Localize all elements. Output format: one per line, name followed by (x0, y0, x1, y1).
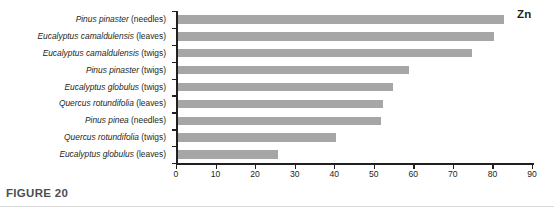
x-axis-tick-label: 60 (401, 169, 425, 179)
y-axis-tick (172, 95, 176, 96)
x-axis-tick-label: 0 (164, 169, 188, 179)
caption-divider (0, 206, 554, 207)
bar (178, 66, 409, 75)
bar-row (178, 146, 534, 163)
x-axis-tick-label: 70 (441, 169, 465, 179)
bar (178, 49, 473, 58)
bar-chart: Pinus pinaster (needles)Eucalyptus camal… (0, 0, 554, 185)
bar (178, 15, 504, 24)
bar (178, 83, 394, 92)
bar (178, 32, 494, 41)
figure-caption-area: FIGURE 20 (0, 185, 554, 215)
y-axis-tick (172, 79, 176, 80)
species-name: Pinus pinaster (76, 14, 129, 24)
bar-row (178, 11, 534, 28)
figure-caption: FIGURE 20 (6, 187, 68, 199)
category-label: Pinus pinaster (twigs) (0, 62, 172, 79)
category-axis-labels: Pinus pinaster (needles)Eucalyptus camal… (0, 11, 172, 163)
x-axis-tick-label: 20 (243, 169, 267, 179)
x-axis-tick-label: 80 (480, 169, 504, 179)
y-axis-tick (172, 129, 176, 130)
species-name: Eucalyptus globulus (59, 149, 134, 159)
y-axis-tick (172, 146, 176, 147)
series-label: Zn (517, 8, 531, 20)
plant-part: (needles) (129, 14, 166, 24)
plant-part: (leaves) (134, 98, 166, 108)
figure-container: Pinus pinaster (needles)Eucalyptus camal… (0, 0, 554, 215)
bar-row (178, 79, 534, 96)
plant-part: (twigs) (139, 48, 166, 58)
bar-row (178, 62, 534, 79)
y-axis-tick (172, 28, 176, 29)
bar-row (178, 129, 534, 146)
bar (178, 117, 382, 126)
category-label: Quercus rotundifolia (twigs) (0, 129, 172, 146)
x-axis-tick-label: 90 (520, 169, 544, 179)
species-name: Eucalyptus camaldulensis (43, 48, 139, 58)
category-label: Eucalyptus camaldulensis (leaves) (0, 28, 172, 45)
plant-part: (leaves) (134, 31, 166, 41)
species-name: Eucalyptus globulus (65, 82, 140, 92)
plot-area (178, 11, 534, 163)
bar-row (178, 45, 534, 62)
species-name: Pinus pinaster (86, 65, 139, 75)
y-axis-tick (172, 62, 176, 63)
category-label: Pinus pinaster (needles) (0, 11, 172, 28)
species-name: Eucalyptus camaldulensis (38, 31, 134, 41)
plant-part: (needles) (129, 115, 166, 125)
plant-part: (twigs) (139, 82, 166, 92)
category-label: Pinus pinea (needles) (0, 112, 172, 129)
species-name: Pinus pinea (85, 115, 129, 125)
x-axis-tick-label: 10 (204, 169, 228, 179)
bar-row (178, 112, 534, 129)
x-axis-tick-label: 40 (322, 169, 346, 179)
bar (178, 150, 279, 159)
x-axis-tick-label: 50 (362, 169, 386, 179)
species-name: Quercus rotundifolia (64, 132, 139, 142)
bar (178, 133, 336, 142)
x-axis-tick-label: 30 (283, 169, 307, 179)
bar-row (178, 28, 534, 45)
category-label: Eucalyptus globulus (twigs) (0, 79, 172, 96)
plant-part: (twigs) (139, 132, 166, 142)
bar (178, 100, 384, 109)
x-axis-line (176, 163, 534, 165)
y-axis-tick (172, 112, 176, 113)
plant-part: (leaves) (134, 149, 166, 159)
y-axis-tick (172, 45, 176, 46)
plant-part: (twigs) (139, 65, 166, 75)
bar-row (178, 95, 534, 112)
category-label: Eucalyptus camaldulensis (twigs) (0, 45, 172, 62)
category-label: Eucalyptus globulus (leaves) (0, 146, 172, 163)
category-label: Quercus rotundifolia (leaves) (0, 95, 172, 112)
y-axis-tick (172, 11, 176, 12)
species-name: Quercus rotundifolia (59, 98, 134, 108)
